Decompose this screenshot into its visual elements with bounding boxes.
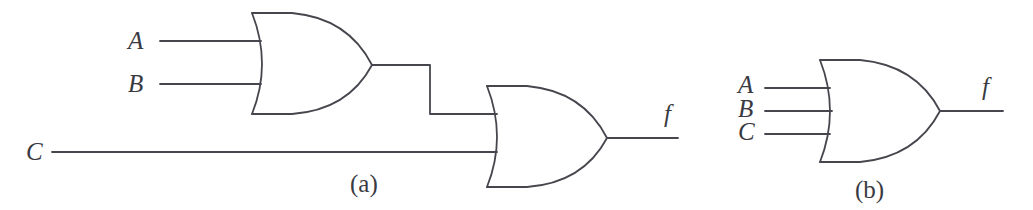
label-input-c: C	[26, 139, 43, 164]
or-gate-b1-bottom-curve	[820, 111, 940, 162]
label-input-a: A	[128, 28, 143, 53]
or-gate-b1	[820, 60, 940, 162]
or-gate-a1-back-arc	[252, 13, 262, 114]
or-gate-a1-top-curve	[252, 13, 372, 65]
label-output-f-a: f	[664, 101, 671, 126]
caption-subfigure-b: (b)	[855, 177, 884, 202]
wire-or1-to-or2	[372, 65, 497, 114]
label-input-b: B	[128, 71, 143, 96]
label-input-c-b: C	[738, 119, 755, 144]
label-output-f-b: f	[982, 74, 989, 99]
logic-circuit-figure: A B C f (a) A B C f (b)	[0, 0, 1033, 210]
label-input-a-b: A	[738, 72, 753, 97]
subfigure-a-group	[52, 13, 678, 187]
or-gate-a2-top-curve	[487, 86, 607, 138]
subfigure-b-group	[765, 60, 1003, 162]
or-gate-a1	[252, 13, 372, 114]
or-gate-a2-back-arc	[487, 86, 497, 187]
or-gate-a2	[487, 86, 607, 187]
or-gate-b1-top-curve	[820, 60, 940, 111]
or-gate-a1-bottom-curve	[252, 65, 372, 114]
or-gate-a2-bottom-curve	[487, 138, 607, 187]
caption-subfigure-a: (a)	[350, 171, 378, 196]
